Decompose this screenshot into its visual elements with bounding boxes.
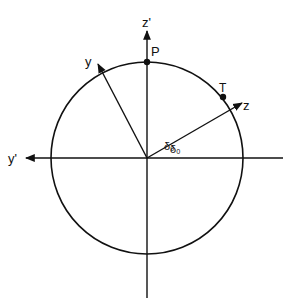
z-axis	[147, 103, 242, 158]
point-p-label: P	[151, 44, 160, 59]
y-prime-axis-label: y'	[8, 151, 17, 166]
point-t-label: T	[219, 81, 227, 95]
y-axis	[98, 64, 147, 158]
point-p	[144, 59, 150, 65]
y-axis-label: y	[85, 54, 92, 69]
z-axis-label: z	[243, 98, 250, 113]
angle-label-lower: δ₀	[170, 143, 181, 155]
z-prime-axis-label: z'	[142, 15, 151, 30]
coordinate-rotation-diagram: y' z' y z P T δ₀ δ₀	[0, 0, 290, 304]
